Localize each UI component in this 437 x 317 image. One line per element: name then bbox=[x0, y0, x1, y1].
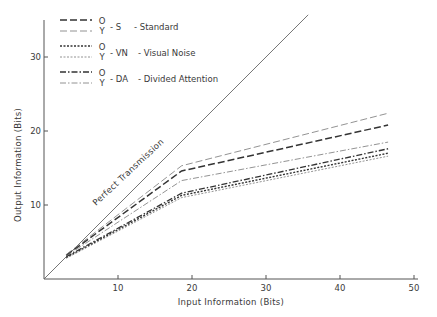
legend-y-label: Y bbox=[98, 26, 105, 36]
x-tick-label: 40 bbox=[335, 283, 346, 293]
legend: OY- S- StandardOY- VN- Visual NoiseOY- D… bbox=[60, 16, 218, 88]
y-tick-label: 10 bbox=[30, 200, 41, 210]
legend-label: - Standard bbox=[134, 22, 178, 32]
perfect-transmission-label: Perfect Transmission bbox=[91, 136, 166, 207]
x-tick-label: 50 bbox=[409, 283, 420, 293]
chart: 1020304050 102030 Input Information (Bit… bbox=[0, 0, 437, 317]
series-line-y-vn bbox=[66, 156, 388, 258]
legend-o-label: O bbox=[99, 42, 106, 52]
legend-y-label: Y bbox=[98, 78, 105, 88]
legend-o-label: O bbox=[99, 68, 106, 78]
x-axis-label: Input Information (Bits) bbox=[178, 297, 284, 307]
y-tick-label: 20 bbox=[30, 126, 41, 136]
legend-o-label: O bbox=[99, 16, 106, 26]
legend-code: - VN bbox=[110, 48, 128, 58]
legend-label: - Visual Noise bbox=[138, 48, 195, 58]
x-ticks: 1020304050 bbox=[113, 275, 420, 293]
y-tick-label: 30 bbox=[30, 52, 41, 62]
series-line-y-da bbox=[66, 142, 388, 256]
legend-y-label: Y bbox=[98, 52, 105, 62]
x-tick-label: 30 bbox=[261, 283, 272, 293]
x-tick-label: 10 bbox=[113, 283, 124, 293]
y-ticks: 102030 bbox=[30, 52, 48, 210]
x-tick-label: 20 bbox=[187, 283, 198, 293]
legend-label: - Divided Attention bbox=[138, 74, 218, 84]
legend-code: - S bbox=[110, 22, 121, 32]
legend-code: - DA bbox=[110, 74, 128, 84]
series-line-o-da bbox=[66, 149, 388, 257]
series-line-o-vn bbox=[66, 153, 388, 257]
y-axis-label: Output Information (Bits) bbox=[13, 108, 23, 222]
